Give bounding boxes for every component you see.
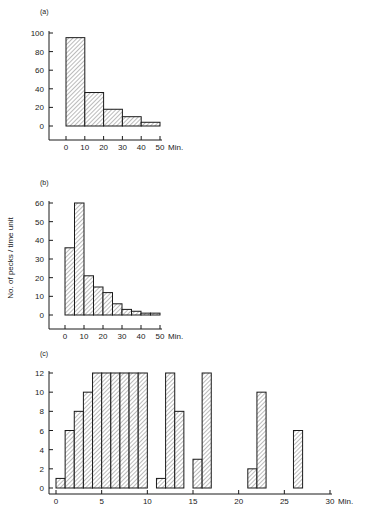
y-tick-label: 80: [35, 48, 44, 57]
panel-label: (c): [40, 350, 48, 358]
histogram-bar: [156, 478, 165, 488]
y-tick-label: 60: [35, 199, 44, 208]
y-tick-label: 6: [40, 427, 45, 436]
y-tick-label: 0: [40, 311, 45, 320]
histogram-bar: [75, 203, 85, 315]
histogram-bar: [120, 373, 129, 488]
histogram-bar: [56, 478, 65, 488]
chart-panel-b: (b)010203040506001020304050Min.: [35, 179, 183, 341]
histogram-bar: [166, 373, 175, 488]
histogram-bar: [141, 313, 151, 315]
x-tick-label: 15: [189, 497, 198, 506]
y-axis-label: No. of pecks / time unit: [6, 217, 15, 299]
y-tick-label: 50: [35, 218, 44, 227]
histogram-bar: [132, 311, 142, 315]
x-tick-label: 50: [156, 332, 165, 341]
x-tick-label: 20: [99, 143, 108, 152]
y-tick-label: 4: [40, 446, 45, 455]
histogram-bar: [151, 313, 161, 315]
chart-panel-c: (c)024681012051015202530Min.: [35, 350, 353, 506]
histogram-bar: [84, 276, 94, 315]
x-tick-label: 0: [54, 497, 59, 506]
histogram-bar: [83, 392, 92, 488]
y-tick-label: 60: [35, 66, 44, 75]
y-tick-label: 30: [35, 255, 44, 264]
histogram-bar: [102, 373, 111, 488]
y-tick-label: 20: [35, 274, 44, 283]
histogram-bar: [202, 373, 211, 488]
x-tick-label: 0: [64, 143, 69, 152]
x-tick-label: 0: [63, 332, 68, 341]
histogram-bar: [141, 122, 160, 126]
x-tick-label: 30: [118, 332, 127, 341]
histogram-bar: [65, 248, 75, 315]
x-tick-label: 25: [280, 497, 289, 506]
y-tick-label: 40: [35, 85, 44, 94]
histogram-bar: [129, 373, 138, 488]
x-axis-unit: Min.: [168, 332, 183, 341]
histogram-bar: [65, 431, 74, 489]
x-tick-label: 10: [143, 497, 152, 506]
panel-label: (b): [40, 179, 49, 187]
x-tick-label: 5: [99, 497, 104, 506]
histogram-bar: [175, 411, 184, 488]
x-tick-label: 40: [137, 143, 146, 152]
y-tick-label: 10: [35, 292, 44, 301]
x-tick-label: 20: [234, 497, 243, 506]
y-tick-label: 10: [35, 388, 44, 397]
y-tick-label: 0: [40, 122, 45, 131]
y-tick-label: 20: [35, 103, 44, 112]
histogram-bar: [104, 109, 123, 126]
x-axis-unit: Min.: [168, 143, 183, 152]
histogram-bar: [193, 459, 202, 488]
histogram-bar: [93, 373, 102, 488]
histogram-bar: [85, 93, 104, 126]
histogram-bar: [103, 293, 113, 315]
chart-panel-a: (a)02040608010001020304050Min.: [31, 8, 183, 152]
histogram-bar: [122, 117, 141, 126]
histogram-bar: [74, 411, 83, 488]
y-tick-label: 8: [40, 407, 45, 416]
x-tick-label: 10: [80, 332, 89, 341]
y-tick-label: 0: [40, 484, 45, 493]
x-tick-label: 30: [326, 497, 335, 506]
x-axis-unit: Min.: [338, 497, 353, 506]
histogram-bar: [248, 469, 257, 488]
x-tick-label: 50: [156, 143, 165, 152]
y-tick-label: 2: [40, 465, 45, 474]
x-tick-label: 40: [137, 332, 146, 341]
histogram-bar: [293, 431, 302, 489]
y-tick-label: 40: [35, 236, 44, 245]
histogram-bar: [111, 373, 120, 488]
y-tick-label: 12: [35, 369, 44, 378]
y-tick-label: 100: [31, 29, 45, 38]
x-tick-label: 20: [99, 332, 108, 341]
histogram-bar: [94, 287, 104, 315]
panel-label: (a): [40, 8, 49, 16]
histogram-bar: [113, 304, 123, 315]
histogram-bar: [122, 309, 132, 315]
x-tick-label: 10: [80, 143, 89, 152]
figure: (a)02040608010001020304050Min. (b)010203…: [0, 0, 369, 513]
histogram-bar: [138, 373, 147, 488]
histogram-bar: [257, 392, 266, 488]
x-tick-label: 30: [118, 143, 127, 152]
histogram-bar: [66, 38, 85, 126]
